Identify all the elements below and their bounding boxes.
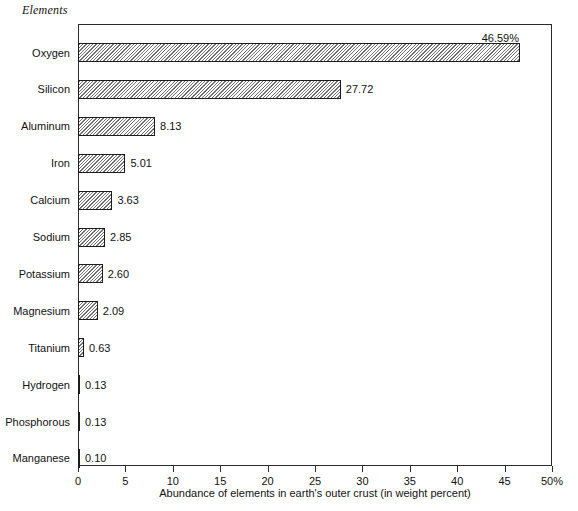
bar-category-label: Hydrogen [22, 379, 70, 391]
bar-category-label: Oxygen [32, 47, 70, 59]
bar [78, 301, 98, 320]
bar-value-label: 27.72 [346, 83, 374, 95]
x-axis: 05101520253035404550% [78, 466, 552, 467]
bar-value-label: 5.01 [130, 157, 151, 169]
bar-value-label: 0.63 [89, 342, 110, 354]
bar-category-label: Iron [51, 157, 70, 169]
bar-row: Iron5.01 [0, 154, 578, 173]
x-axis-tick-label: 30 [356, 475, 368, 487]
bar-row: Potassium2.60 [0, 264, 578, 283]
bar [78, 191, 112, 210]
x-axis-tick [362, 466, 363, 472]
bar-category-label: Potassium [19, 268, 70, 280]
x-axis-tick-label: 20 [261, 475, 273, 487]
bar-row: Silicon27.72 [0, 80, 578, 99]
category-axis-title: Elements [22, 3, 68, 18]
bar-value-label: 0.10 [85, 452, 106, 464]
x-axis-tick-label: 40 [451, 475, 463, 487]
bar [78, 80, 341, 99]
bar-row: Sodium2.85 [0, 228, 578, 247]
x-axis-tick [410, 466, 411, 472]
x-axis-tick [125, 466, 126, 472]
bar-value-label: 46.59% [482, 32, 519, 44]
x-axis-tick [268, 466, 269, 472]
bar-category-label: Sodium [33, 231, 70, 243]
bar-chart: Elements Oxygen46.59%Silicon27.72Aluminu… [0, 0, 578, 511]
x-axis-tick-label: 10 [167, 475, 179, 487]
bar-row: Oxygen46.59% [0, 43, 578, 62]
bar-row: Hydrogen0.13 [0, 375, 578, 394]
x-axis-tick-label: 5 [122, 475, 128, 487]
x-axis-tick-label: 45 [498, 475, 510, 487]
x-axis-tick-label: 0 [75, 475, 81, 487]
bar-category-label: Phosphorous [5, 416, 70, 428]
bar [78, 154, 125, 173]
bar-category-label: Titanium [28, 342, 70, 354]
x-axis-tick [315, 466, 316, 472]
x-axis-tick [78, 466, 79, 472]
x-axis-tick-label: 15 [214, 475, 226, 487]
x-axis-tick [552, 466, 553, 472]
bar-value-label: 0.13 [85, 379, 106, 391]
bar [78, 228, 105, 247]
bar [78, 338, 84, 357]
x-axis-tick [173, 466, 174, 472]
x-axis-tick-label: 50% [541, 475, 563, 487]
x-axis-tick-label: 35 [404, 475, 416, 487]
x-axis-tick-label: 25 [309, 475, 321, 487]
bar-category-label: Aluminum [21, 120, 70, 132]
x-axis-tick [457, 466, 458, 472]
bar-value-label: 3.63 [117, 194, 138, 206]
bar-row: Magnesium2.09 [0, 301, 578, 320]
bar [78, 264, 103, 283]
bar-value-label: 2.85 [110, 231, 131, 243]
bar-category-label: Magnesium [13, 305, 70, 317]
bar [78, 412, 80, 431]
bar-value-label: 0.13 [85, 416, 106, 428]
bar-row: Calcium3.63 [0, 191, 578, 210]
bar-category-label: Silicon [38, 83, 70, 95]
bar [78, 43, 520, 62]
bar-value-label: 2.09 [103, 305, 124, 317]
bar-category-label: Manganese [13, 452, 71, 464]
bar [78, 375, 80, 394]
bar [78, 117, 155, 136]
bar-row: Phosphorous0.13 [0, 412, 578, 431]
bar-category-label: Calcium [30, 194, 70, 206]
x-axis-tick [220, 466, 221, 472]
bar-row: Titanium0.63 [0, 338, 578, 357]
bar-row: Aluminum8.13 [0, 117, 578, 136]
bar-value-label: 8.13 [160, 120, 181, 132]
x-axis-title: Abundance of elements in earth's outer c… [78, 487, 552, 499]
x-axis-tick [505, 466, 506, 472]
bar-value-label: 2.60 [108, 268, 129, 280]
